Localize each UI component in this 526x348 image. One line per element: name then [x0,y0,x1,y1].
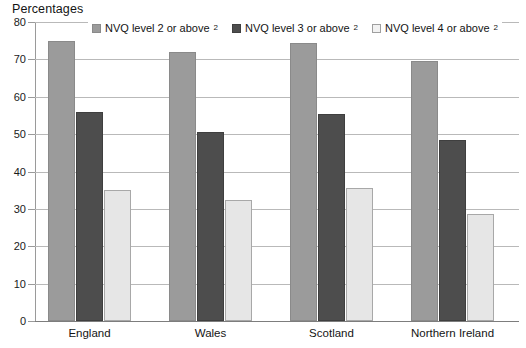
bar [225,200,252,321]
bar [197,132,224,321]
chart-legend: NVQ level 2 or above2NVQ level 3 or abov… [88,21,502,35]
y-axis-tick [28,321,35,322]
legend-swatch-icon [372,24,381,33]
bar [104,190,131,321]
y-axis-tick [28,246,35,247]
legend-item[interactable]: NVQ level 3 or above2 [232,22,358,34]
y-axis-tick [28,59,35,60]
legend-swatch-icon [92,24,101,33]
bar [48,41,75,321]
bar [346,188,373,321]
gridline [35,59,519,60]
legend-label: NVQ level 2 or above [105,22,210,34]
y-axis-tick-label: 70 [2,53,26,65]
bar [76,112,103,321]
y-axis-tick-label: 0 [2,315,26,327]
y-axis-tick [28,284,35,285]
bar [439,140,466,321]
x-axis-category-label: Wales [195,327,227,339]
bar [467,214,494,321]
plot-area [35,22,519,321]
bar [169,52,196,321]
bar [290,43,317,321]
y-axis-tick [28,172,35,173]
bar [411,61,438,321]
x-axis-category-label: Northern Ireland [411,327,494,339]
bar [318,114,345,321]
legend-label: NVQ level 4 or above [385,22,490,34]
legend-item[interactable]: NVQ level 2 or above2 [92,22,218,34]
y-axis-tick [28,97,35,98]
y-axis-tick-label: 20 [2,240,26,252]
legend-swatch-icon [232,24,241,33]
y-axis-tick-label: 60 [2,91,26,103]
y-axis-tick [28,134,35,135]
legend-label: NVQ level 3 or above [245,22,350,34]
x-axis-category-label: England [68,327,110,339]
y-axis-tick-label: 80 [2,16,26,28]
legend-item[interactable]: NVQ level 4 or above2 [372,22,498,34]
y-axis-tick-label: 40 [2,166,26,178]
gridline [35,97,519,98]
y-axis-tick-label: 10 [2,278,26,290]
x-axis-category-label: Scotland [309,327,354,339]
y-axis-tick-label: 50 [2,128,26,140]
gridline [35,134,519,135]
y-axis-labels: 01020304050607080 [0,0,26,348]
y-axis-tick-label: 30 [2,203,26,215]
y-axis-tick [28,209,35,210]
y-axis-tick [28,22,35,23]
bar-chart: Percentages 01020304050607080 EnglandWal… [0,0,526,348]
x-axis-line [35,321,519,322]
